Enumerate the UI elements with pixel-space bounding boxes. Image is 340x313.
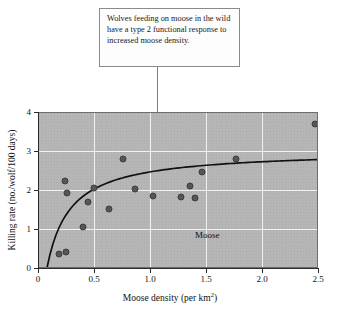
x-tick [318, 269, 319, 273]
data-point [191, 194, 198, 201]
y-axis-line [38, 112, 39, 269]
data-point [198, 169, 205, 176]
figure: Wolves feeding on moose in the wild have… [0, 0, 340, 313]
x-tick [94, 269, 95, 273]
x-tick-label: 1.5 [200, 274, 211, 284]
data-point [178, 193, 185, 200]
x-tick-label: 2.0 [256, 274, 267, 284]
x-tick-label: 1.0 [144, 274, 155, 284]
data-point [79, 224, 86, 231]
y-tick-label: 3 [20, 146, 31, 156]
data-point [63, 248, 70, 255]
x-tick-label: 0 [36, 274, 41, 284]
y-tick [34, 190, 38, 191]
y-tick [34, 268, 38, 269]
x-tick-label: 2.5 [312, 274, 323, 284]
fitted-curve [38, 112, 318, 268]
x-tick [206, 269, 207, 273]
y-tick-label: 2 [20, 185, 31, 195]
in-plot-label-moose: Moose [195, 230, 220, 240]
data-point [120, 155, 127, 162]
data-point [85, 198, 92, 205]
y-tick-label: 0 [20, 263, 31, 273]
data-point [61, 178, 68, 185]
x-tick-label: 0.5 [88, 274, 99, 284]
x-axis-title-text: Moose density (per km2) [123, 293, 217, 303]
data-point [150, 192, 157, 199]
data-point [132, 186, 139, 193]
y-tick [34, 112, 38, 113]
x-tick [38, 269, 39, 273]
data-point [311, 120, 318, 127]
x-axis-title: Moose density (per km2) [0, 291, 340, 303]
data-point [91, 185, 98, 192]
data-point [233, 155, 240, 162]
x-tick [262, 269, 263, 273]
data-point [64, 190, 71, 197]
x-axis-line [38, 268, 319, 269]
y-axis-title: Killing rate (no./wolf/100 days) [7, 115, 17, 265]
y-tick [34, 229, 38, 230]
x-tick [150, 269, 151, 273]
data-point [187, 183, 194, 190]
y-tick-label: 1 [20, 224, 31, 234]
y-tick [34, 151, 38, 152]
plot-area: Moose [38, 112, 318, 268]
y-tick-label: 4 [20, 107, 31, 117]
callout-box: Wolves feeding on moose in the wild have… [99, 8, 240, 67]
data-point [105, 205, 112, 212]
callout-text: Wolves feeding on moose in the wild have… [107, 14, 233, 47]
